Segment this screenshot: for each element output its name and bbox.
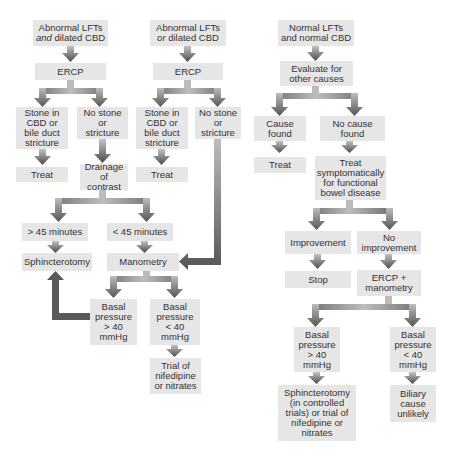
flowchart: Abnormal LFTsand dilated CBD ERCP Stone … <box>0 0 449 454</box>
node-ercp-a: ERCP <box>35 63 106 80</box>
node-stone-a: Stone in CBD or bile duct stricture <box>16 107 68 149</box>
node-label: Abnormal LFTsor dilated CBD <box>156 23 220 43</box>
node-abnormal-lfts-and-dilated-cbd: Abnormal LFTsand dilated CBD <box>33 20 108 46</box>
node-normal-lfts-normal-cbd: Normal LFTs and normal CBD <box>278 20 354 46</box>
node-biliary-cause-unlikely: Biliary cause unlikely <box>390 385 436 422</box>
node-stop: Stop <box>285 271 351 288</box>
node-basal-pressure-gt-40-c: Basal pressure > 40 mmHg <box>294 327 340 372</box>
node-no-stone-b: No stone or stricture <box>195 107 241 139</box>
node-ercp-manometry: ERCP + manometry <box>357 270 421 296</box>
node-basal-pressure-gt-40-a: Basal pressure > 40 mmHg <box>90 299 137 345</box>
node-manometry: Manometry <box>107 253 179 271</box>
node-no-improvement: No improvement <box>357 231 421 254</box>
node-sphincterotomy: Sphincterotomy <box>22 253 92 271</box>
node-treat-c: Treat <box>254 157 306 173</box>
node-abnormal-lfts-or-dilated-cbd: Abnormal LFTsor dilated CBD <box>150 20 226 46</box>
node-basal-pressure-lt-40-a: Basal pressure < 40 mmHg <box>150 299 200 345</box>
node-basal-pressure-lt-40-c: Basal pressure < 40 mmHg <box>390 327 436 372</box>
node-gt-45-minutes: > 45 minutes <box>22 223 88 241</box>
node-improvement: Improvement <box>285 231 351 254</box>
node-sphincterotomy-controlled-trials: Sphincterotomy (in controlled trials) or… <box>278 385 356 441</box>
node-treat-a: Treat <box>16 167 68 182</box>
node-label: Abnormal LFTsand dilated CBD <box>36 23 105 43</box>
node-ercp-b: ERCP <box>153 63 223 80</box>
node-trial-nifedipine: Trial of nifedipine or nitrates <box>150 358 201 394</box>
node-evaluate-other-causes: Evaluate for other causes <box>280 61 353 86</box>
node-cause-found: Cause found <box>254 116 306 141</box>
node-drainage-of-contrast: Drainage of contrast <box>80 164 128 190</box>
node-treat-symptomatically: Treat symptomatically for functional bow… <box>315 156 386 200</box>
node-no-cause-found: No cause found <box>320 116 385 141</box>
node-treat-b: Treat <box>136 167 188 182</box>
node-no-stone-a: No stone or stricture <box>77 107 128 139</box>
node-stone-b: Stone in CBD or bile duct stricture <box>136 107 188 149</box>
node-lt-45-minutes: < 45 minutes <box>107 223 173 241</box>
